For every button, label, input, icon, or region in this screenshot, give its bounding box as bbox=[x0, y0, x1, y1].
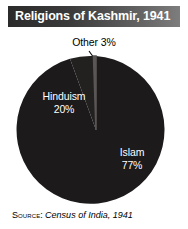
pie-chart-figure: Religions of Kashmir, 1941 Other 3% Hind… bbox=[0, 0, 188, 229]
pie-chart-svg bbox=[0, 27, 188, 209]
source-credit: Source: Census of India, 1941 bbox=[12, 211, 133, 220]
page-title: Religions of Kashmir, 1941 bbox=[15, 10, 170, 23]
chart-title-bar: Religions of Kashmir, 1941 bbox=[8, 6, 180, 27]
source-text: Census of India, 1941 bbox=[45, 210, 133, 220]
slice-label-hinduism-name: Hinduism bbox=[28, 90, 100, 103]
slice-label-islam-name: Islam bbox=[98, 146, 166, 159]
source-prefix: Source: bbox=[12, 210, 43, 220]
chart-area: Other 3% Hinduism 20% Islam 77% bbox=[0, 27, 188, 209]
slice-label-islam-value: 77% bbox=[98, 159, 166, 172]
slice-label-hinduism-value: 20% bbox=[28, 103, 100, 116]
slice-label-islam: Islam 77% bbox=[98, 146, 166, 171]
slice-label-hinduism: Hinduism 20% bbox=[28, 90, 100, 115]
